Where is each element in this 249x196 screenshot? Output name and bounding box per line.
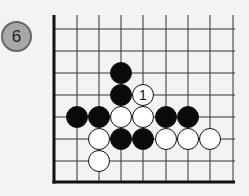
black-stone <box>156 107 177 128</box>
move-number-label: 1 <box>139 87 147 103</box>
white-stone <box>89 129 110 150</box>
go-board: 1 <box>0 0 249 196</box>
white-stone: 1 <box>133 85 154 106</box>
white-stone <box>178 129 199 150</box>
black-stone <box>111 129 132 150</box>
white-stone <box>156 129 177 150</box>
black-stone <box>89 107 110 128</box>
black-stone <box>111 85 132 106</box>
black-stone <box>178 107 199 128</box>
black-stone <box>111 63 132 84</box>
white-stone <box>89 151 110 172</box>
black-stone <box>67 107 88 128</box>
white-stone <box>133 107 154 128</box>
black-stone <box>133 129 154 150</box>
white-stone <box>111 107 132 128</box>
white-stone <box>200 129 221 150</box>
